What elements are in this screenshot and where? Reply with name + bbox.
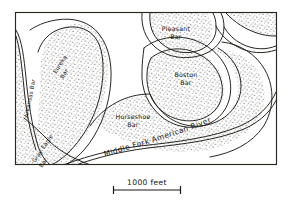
label-pleasant-bar-line2: Bar [170,33,182,40]
scale-bar-label: 1000 feet [127,178,167,187]
label-horseshoe-bar-line1: Horseshoe [115,113,150,120]
label-horseshoe-bar-line2: Bar [127,121,139,128]
river-map-figure: Arkansas Bar Eureka Bar Gray Eagle Bar P… [0,0,291,206]
label-boston-bar-line2: Bar [180,79,192,86]
label-boston-bar-line1: Boston [175,71,198,78]
label-pleasant-bar-line1: Pleasant [162,25,191,32]
map-svg: Arkansas Bar Eureka Bar Gray Eagle Bar P… [0,0,291,206]
